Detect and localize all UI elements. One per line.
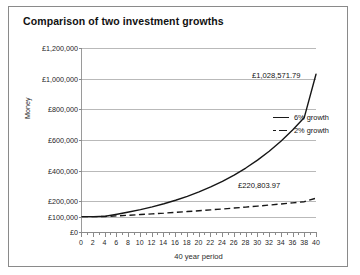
x-axis-tick-label: 22	[206, 239, 214, 246]
x-axis-tick-label: 34	[277, 239, 285, 246]
end-value-2-percent: £220,803.97	[238, 181, 280, 190]
chart-figure: Comparison of two investment growths Mon…	[8, 6, 348, 267]
x-axis-tick-label: 10	[136, 239, 144, 246]
y-axis-tick-labels: £0£100,000£200,000£400,000£600,000£800,0…	[9, 48, 78, 232]
x-axis-tick-label: 40	[312, 239, 320, 246]
y-axis-tick-label: £800,000	[48, 105, 78, 114]
legend-label-6-percent: 6% growth	[294, 113, 329, 122]
legend-item-2-percent: 2% growth	[273, 124, 360, 137]
x-axis-title: 40 year period	[81, 252, 316, 261]
x-axis-major-tick	[316, 232, 317, 237]
x-axis-tick-label: 6	[114, 239, 118, 246]
x-axis-tick-label: 38	[300, 239, 308, 246]
y-axis-tick-label: £1,000,000	[42, 74, 78, 83]
x-axis-tick-label: 14	[159, 239, 167, 246]
x-axis-tick-label: 24	[218, 239, 226, 246]
x-axis-tick-label: 20	[195, 239, 203, 246]
y-axis-tick-label: £0	[70, 228, 78, 237]
y-axis-tick-label: £400,000	[48, 166, 78, 175]
end-value-6-percent: £1,028,571.79	[252, 71, 301, 80]
x-axis-tick-label: 18	[183, 239, 191, 246]
y-axis-tick-label: £200,000	[48, 197, 78, 206]
x-axis-tick-label: 32	[265, 239, 273, 246]
x-axis-tick-label: 16	[171, 239, 179, 246]
x-axis-tick-label: 12	[148, 239, 156, 246]
x-axis-tick-label: 36	[289, 239, 297, 246]
x-axis-tick-labels: 0246810121416182022242628303234363840	[81, 232, 316, 248]
dashed-line-icon	[273, 127, 289, 134]
x-axis-tick-label: 28	[242, 239, 250, 246]
x-axis-tick-label: 0	[79, 239, 83, 246]
chart-title: Comparison of two investment growths	[23, 15, 224, 27]
series-line-6-percent	[82, 74, 316, 216]
y-axis-tick-label: £100,000	[48, 212, 78, 221]
y-axis-tick-label: £1,200,000	[42, 44, 78, 53]
legend-item-6-percent: 6% growth	[273, 111, 360, 124]
y-axis-tick-label: £600,000	[48, 136, 78, 145]
x-axis-tick-label: 26	[230, 239, 238, 246]
solid-line-icon	[273, 114, 289, 121]
x-axis-tick-label: 30	[253, 239, 261, 246]
legend-label-2-percent: 2% growth	[294, 126, 329, 135]
chart-legend: 6% growth 2% growth	[273, 111, 360, 137]
x-axis-tick-label: 8	[126, 239, 130, 246]
x-axis-tick-label: 4	[103, 239, 107, 246]
x-axis-tick-label: 2	[91, 239, 95, 246]
